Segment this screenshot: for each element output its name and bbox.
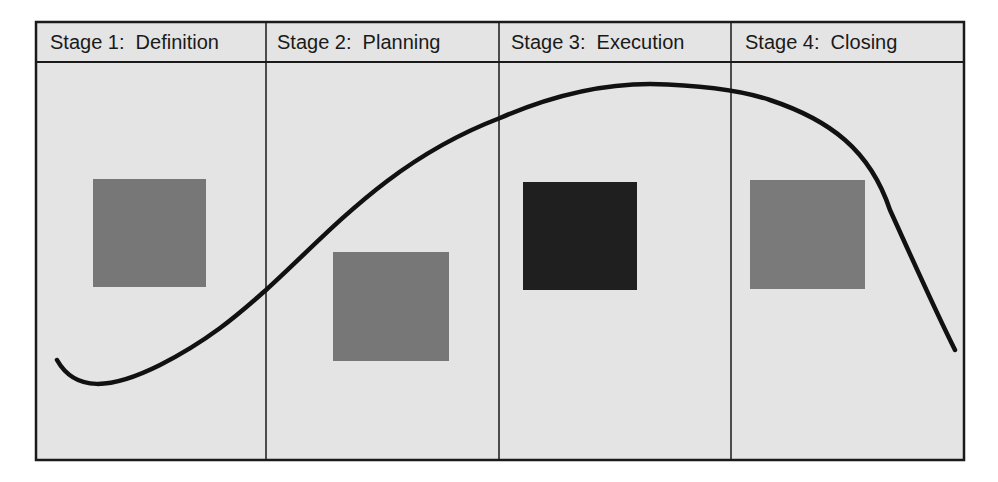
stage-4-label: Stage 4: Closing [745,31,897,53]
project-life-cycle-diagram: Stage 1: Definition Stage 2: Planning St… [0,0,998,482]
stage-3-square [523,182,637,290]
stage-3-label: Stage 3: Execution [511,31,684,53]
stage-2-label: Stage 2: Planning [277,31,440,53]
stage-2-square [333,252,449,361]
stage-1-label: Stage 1: Definition [50,31,219,53]
stage-4-square [750,180,865,289]
stage-1-square [93,179,206,287]
